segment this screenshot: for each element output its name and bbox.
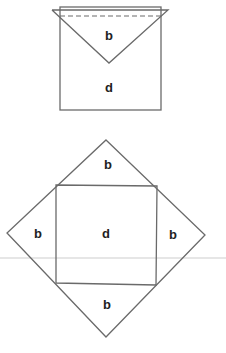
right-flap-label: b: [169, 227, 177, 242]
bottom-net-figure: b b d b b: [7, 140, 205, 337]
left-flap-label: b: [34, 226, 42, 241]
flap-label: b: [105, 28, 113, 43]
top-flap-label: b: [104, 157, 112, 172]
bottom-flap-label: b: [103, 297, 111, 312]
body-label: d: [105, 80, 113, 95]
top-envelope-figure: b d: [52, 7, 168, 110]
center-label: d: [102, 226, 110, 241]
diagram-canvas: b d b b d b b: [0, 0, 226, 353]
